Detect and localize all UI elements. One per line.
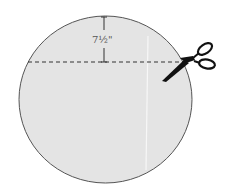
circle-cut-diagram [0,0,225,191]
measurement-label: 7½" [92,34,113,45]
